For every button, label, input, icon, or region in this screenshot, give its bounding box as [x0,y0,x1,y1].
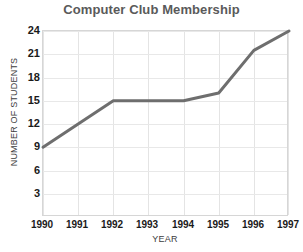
y-tick-label: 21 [2,48,40,59]
x-tick-label: 1994 [163,219,203,231]
chart-container: Computer Club Membership 3691215182124 N… [0,0,303,252]
x-tick-label: 1997 [268,219,303,231]
y-tick-label: 12 [2,118,40,129]
x-axis-title: YEAR [42,234,288,244]
y-tick-label: 24 [2,25,40,36]
data-series-line [43,31,289,147]
x-tick-label: 1992 [92,219,132,231]
y-tick-label: 3 [2,188,40,199]
x-tick-label: 1990 [22,219,62,231]
data-line-svg [43,31,289,217]
y-axis-tick-labels: 3691215182124 [0,30,40,216]
chart-title: Computer Club Membership [0,2,303,17]
y-axis-title: NUMBER OF STUDENTS [9,37,19,187]
y-tick-label: 6 [2,165,40,176]
y-tick-label: 15 [2,95,40,106]
x-tick-label: 1991 [57,219,97,231]
y-tick-label: 9 [2,141,40,152]
x-tick-label: 1993 [127,219,167,231]
x-axis-tick-labels: 19901991199219931994199519961997 [42,219,288,233]
x-tick-label: 1995 [198,219,238,231]
x-tick-label: 1996 [233,219,273,231]
y-tick-label: 18 [2,72,40,83]
plot-area [42,30,288,216]
